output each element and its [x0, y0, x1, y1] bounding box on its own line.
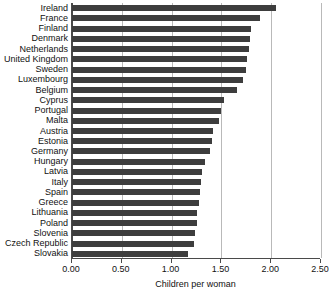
x-tick-0.50 [121, 259, 122, 263]
bar-row [72, 95, 320, 105]
bar [72, 118, 219, 124]
bar-row [72, 218, 320, 228]
bar [72, 179, 201, 185]
bar [72, 230, 195, 236]
category-label: United Kingdom [0, 55, 68, 64]
x-tick-label: 0.50 [112, 264, 130, 274]
category-label: Hungary [0, 157, 68, 166]
bar-row [72, 187, 320, 197]
x-tick-label: 0.00 [62, 264, 80, 274]
bar-row [72, 64, 320, 74]
bar-row [72, 105, 320, 115]
bar-row [72, 167, 320, 177]
bar [72, 15, 260, 21]
category-label: Austria [0, 127, 68, 136]
category-axis-labels: IrelandFranceFinlandDenmarkNetherlandsUn… [0, 3, 68, 259]
category-label: Finland [0, 24, 68, 33]
bar-row [72, 208, 320, 218]
category-label: Poland [0, 219, 68, 228]
bar [72, 200, 199, 206]
x-axis-ticks [71, 259, 320, 263]
category-label: Czech Republic [0, 239, 68, 248]
bar [72, 169, 202, 175]
category-label: Lithuania [0, 208, 68, 217]
x-tick-label: 1.50 [212, 264, 230, 274]
plot-area [71, 3, 320, 259]
bar [72, 241, 194, 247]
category-label: Estonia [0, 137, 68, 146]
bar-row [72, 177, 320, 187]
bar [72, 210, 197, 216]
bar [72, 251, 188, 257]
bar [72, 56, 247, 62]
bar-row [72, 44, 320, 54]
x-tick-label: 2.00 [261, 264, 279, 274]
x-tick-label: 1.00 [162, 264, 180, 274]
x-tick-2.00 [270, 259, 271, 263]
bar [72, 5, 276, 11]
bar [72, 220, 197, 226]
category-label: Italy [0, 178, 68, 187]
category-label: Germany [0, 147, 68, 156]
bar [72, 26, 251, 32]
category-label: Greece [0, 198, 68, 207]
bar-row [72, 146, 320, 156]
bar-row [72, 34, 320, 44]
category-label: Latvia [0, 167, 68, 176]
category-label: Luxembourg [0, 75, 68, 84]
bar-row [72, 85, 320, 95]
bar [72, 108, 221, 114]
x-tick-0.00 [71, 259, 72, 263]
bar-series [72, 3, 320, 258]
bar-row [72, 157, 320, 167]
category-label: Portugal [0, 106, 68, 115]
bar [72, 67, 246, 73]
bar-row [72, 249, 320, 259]
bar-row [72, 23, 320, 33]
category-label: Netherlands [0, 45, 68, 54]
category-label: Slovenia [0, 229, 68, 238]
x-tick-2.50 [320, 259, 321, 263]
x-tick-1.00 [171, 259, 172, 263]
bar [72, 148, 210, 154]
category-label: Malta [0, 116, 68, 125]
bar-row [72, 136, 320, 146]
bar-row [72, 228, 320, 238]
fertility-bar-chart: IrelandFranceFinlandDenmarkNetherlandsUn… [0, 0, 335, 294]
bar-row [72, 3, 320, 13]
bar-row [72, 75, 320, 85]
bar-row [72, 198, 320, 208]
category-label: Sweden [0, 65, 68, 74]
x-axis-title: Children per woman [71, 279, 320, 289]
category-label: Slovakia [0, 249, 68, 258]
bar-row [72, 126, 320, 136]
bar-row [72, 13, 320, 23]
bar [72, 128, 213, 134]
gridline-2.50 [321, 3, 322, 258]
bar [72, 159, 205, 165]
category-label: France [0, 14, 68, 23]
x-tick-1.50 [220, 259, 221, 263]
bar-row [72, 54, 320, 64]
bar-row [72, 116, 320, 126]
category-label: Spain [0, 188, 68, 197]
bar [72, 138, 212, 144]
x-axis-tick-labels: 0.000.501.001.502.002.50 [0, 264, 335, 276]
category-label: Cyprus [0, 96, 68, 105]
x-tick-label: 2.50 [311, 264, 329, 274]
bar-row [72, 239, 320, 249]
category-label: Ireland [0, 4, 68, 13]
category-label: Belgium [0, 86, 68, 95]
category-label: Denmark [0, 34, 68, 43]
bar [72, 189, 200, 195]
bar [72, 87, 237, 93]
bar [72, 46, 249, 52]
bar [72, 36, 250, 42]
bar [72, 97, 224, 103]
bar [72, 77, 243, 83]
